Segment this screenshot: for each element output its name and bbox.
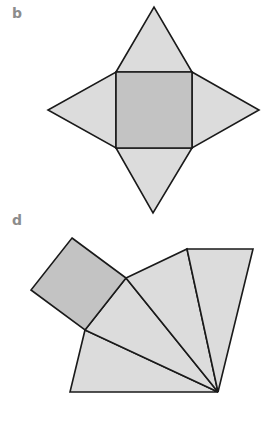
pyramid-net-b (48, 7, 259, 213)
pyramid-net-d (31, 238, 253, 392)
left-triangle (48, 72, 116, 148)
square-base (116, 72, 192, 148)
right-triangle (192, 72, 259, 148)
diagram-canvas (0, 0, 269, 421)
top-triangle (116, 7, 192, 72)
bottom-triangle (116, 148, 192, 213)
